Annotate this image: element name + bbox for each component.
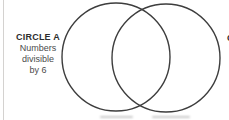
circle-a-shape (62, 3, 170, 111)
venn-diagram-panel: CIRCLE A Numbers divisible by 6 C (0, 0, 229, 120)
circle-a-description-line: by 6 (6, 65, 70, 76)
circle-a-label: CIRCLE A Numbers divisible by 6 (6, 32, 70, 76)
cutoff-content-smudge-left (100, 116, 133, 119)
cutoff-content-smudge-right (152, 116, 190, 119)
circle-b-label-partial: C (227, 33, 229, 44)
circle-a-description-line: Numbers (6, 43, 70, 54)
circle-b-shape (112, 4, 220, 112)
circle-a-description-line: divisible (6, 54, 70, 65)
circle-a-title: CIRCLE A (6, 32, 70, 43)
